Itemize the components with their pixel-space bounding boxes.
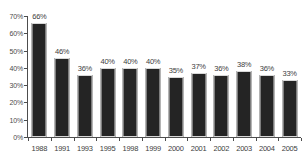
x-tick-mark xyxy=(74,138,75,141)
x-tick-mark xyxy=(96,138,97,141)
bar-slot: 36% xyxy=(256,16,279,137)
bar-slot: 40% xyxy=(96,16,119,137)
y-tick-mark xyxy=(24,137,27,138)
y-tick-mark xyxy=(24,51,27,52)
x-tick-mark xyxy=(278,138,279,141)
bar-value-label: 36% xyxy=(260,65,274,73)
x-tick-mark xyxy=(119,138,120,141)
bar-slot: 33% xyxy=(278,16,301,137)
bar xyxy=(214,75,229,137)
y-tick-label: 10% xyxy=(0,116,23,123)
bar-slot: 38% xyxy=(233,16,256,137)
x-tick-label: 2002 xyxy=(213,145,229,153)
y-tick-mark xyxy=(24,68,27,69)
x-tick-mark xyxy=(233,138,234,141)
bar-value-label: 36% xyxy=(214,65,228,73)
x-tick-mark xyxy=(301,138,302,141)
bar-value-label: 37% xyxy=(191,63,205,71)
bar-value-label: 33% xyxy=(282,70,296,78)
bar xyxy=(123,68,138,137)
x-tick-mark xyxy=(51,138,52,141)
bar xyxy=(168,77,183,138)
bar xyxy=(55,58,70,138)
x-tick-label: 1995 xyxy=(100,145,116,153)
x-tick-label: 1999 xyxy=(145,145,161,153)
y-tick-label: 40% xyxy=(0,64,23,71)
bar-slot: 66% xyxy=(28,16,51,137)
y-tick-label: 0% xyxy=(0,134,23,141)
x-tick-label: 2001 xyxy=(191,145,207,153)
y-tick-label: 70% xyxy=(0,13,23,20)
x-tick-mark xyxy=(28,138,29,141)
y-tick-label: 60% xyxy=(0,30,23,37)
x-tick-mark xyxy=(187,138,188,141)
y-tick-mark xyxy=(24,85,27,86)
bar xyxy=(32,23,47,137)
y-tick-mark xyxy=(24,16,27,17)
y-tick-label: 20% xyxy=(0,99,23,106)
bar xyxy=(259,75,274,137)
x-tick-mark xyxy=(256,138,257,141)
x-tick-label: 2003 xyxy=(236,145,252,153)
bar-slot: 37% xyxy=(187,16,210,137)
bar-slot: 36% xyxy=(74,16,97,137)
bar xyxy=(100,68,115,137)
bar-value-label: 46% xyxy=(55,48,69,56)
bar-value-label: 38% xyxy=(237,61,251,69)
bar xyxy=(237,71,252,137)
y-tick-mark xyxy=(24,120,27,121)
x-axis: 1988199119931995199819992000200120022003… xyxy=(28,145,301,157)
y-tick-label: 50% xyxy=(0,47,23,54)
y-axis: 0%10%20%30%40%50%60%70% xyxy=(0,14,23,138)
x-tick-label: 1991 xyxy=(54,145,70,153)
x-tick-mark xyxy=(142,138,143,141)
bar-value-label: 40% xyxy=(123,58,137,66)
x-tick-label: 1993 xyxy=(77,145,93,153)
y-tick-mark xyxy=(24,102,27,103)
bar-chart: 0%10%20%30%40%50%60%70% 66%46%36%40%40%4… xyxy=(0,0,305,167)
bar-value-label: 40% xyxy=(100,58,114,66)
bar xyxy=(77,75,92,137)
bar-slot: 40% xyxy=(119,16,142,137)
bar xyxy=(191,73,206,137)
bar-slot: 46% xyxy=(51,16,74,137)
bar-slot: 36% xyxy=(210,16,233,137)
bar-value-label: 36% xyxy=(78,65,92,73)
y-tick-mark xyxy=(24,33,27,34)
x-tick-label: 2004 xyxy=(259,145,275,153)
x-tick-label: 1988 xyxy=(31,145,47,153)
bar-value-label: 66% xyxy=(32,13,46,21)
x-tick-mark xyxy=(210,138,211,141)
y-tick-label: 30% xyxy=(0,82,23,89)
x-tick-label: 2005 xyxy=(282,145,298,153)
bar xyxy=(146,68,161,137)
plot-area: 66%46%36%40%40%40%35%37%36%38%36%33% xyxy=(28,16,301,137)
bar-slot: 35% xyxy=(165,16,188,137)
bar-slot: 40% xyxy=(142,16,165,137)
x-tick-label: 2000 xyxy=(168,145,184,153)
bar xyxy=(282,80,297,137)
x-tick-mark xyxy=(165,138,166,141)
bar-value-label: 35% xyxy=(169,67,183,75)
x-tick-label: 1998 xyxy=(122,145,138,153)
bar-value-label: 40% xyxy=(146,58,160,66)
